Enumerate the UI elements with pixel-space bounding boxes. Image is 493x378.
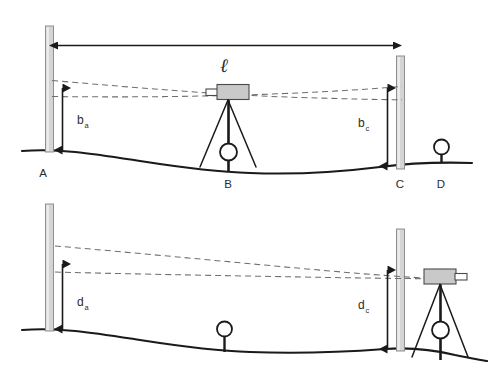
reading-ba-subscript: a bbox=[85, 121, 90, 130]
reading-da-subscript: a bbox=[85, 303, 90, 312]
reading-bc-subscript: c bbox=[366, 124, 370, 133]
staff-c-top bbox=[397, 56, 405, 169]
reading-ba-label: b bbox=[77, 113, 84, 127]
reading-da-label: d bbox=[77, 295, 84, 309]
reading-dc-bottom: d c bbox=[358, 270, 388, 349]
staff-a-top bbox=[46, 26, 54, 152]
reading-dc-subscript: c bbox=[366, 306, 370, 315]
reading-da-bottom: d a bbox=[63, 264, 90, 329]
benchmark-d-top bbox=[434, 140, 449, 164]
sight-line-upper-bottom bbox=[55, 246, 434, 279]
leveling-diagram-figure: b a b c A B C D ℓ bbox=[0, 0, 493, 378]
top-panel: b a b c A B C D ℓ bbox=[22, 26, 472, 190]
baseline-length-label: ℓ bbox=[220, 55, 228, 76]
level-instrument-bottom bbox=[412, 269, 468, 360]
bottom-panel: d a d c bbox=[22, 204, 487, 361]
point-label-d-top: D bbox=[437, 178, 445, 190]
point-label-a-top: A bbox=[39, 167, 47, 179]
reading-bc-label: b bbox=[358, 116, 365, 130]
diagram-canvas: b a b c A B C D ℓ bbox=[0, 0, 493, 378]
point-label-b-top: B bbox=[224, 178, 232, 190]
level-instrument-top bbox=[200, 85, 256, 173]
staff-a-bottom bbox=[46, 204, 54, 331]
staff-c-bottom bbox=[397, 229, 405, 351]
point-label-c-top: C bbox=[396, 178, 404, 190]
benchmark-bottom bbox=[217, 322, 232, 353]
reading-dc-label: d bbox=[358, 298, 365, 312]
